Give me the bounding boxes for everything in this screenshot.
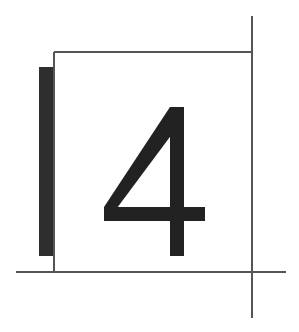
left-shadow-bar	[39, 67, 55, 256]
digit-four-glyph	[104, 107, 205, 256]
numbered-frame-figure: 4	[0, 0, 299, 332]
frame-drawing	[0, 0, 299, 332]
